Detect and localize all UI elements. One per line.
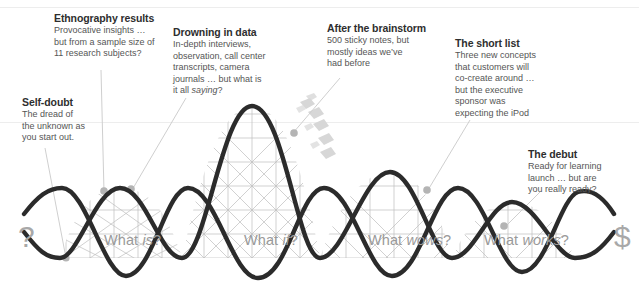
annotation-body-line: co-create around … <box>455 73 535 83</box>
annotation-body-line: but from a sample size of <box>54 37 155 47</box>
phase-emphasis: wows <box>406 232 443 248</box>
phase-suffix: ? <box>443 232 451 248</box>
annotation-drowning-in-data: Drowning in data In-depth interviews, ob… <box>173 26 277 97</box>
phase-emphasis: if <box>282 232 289 248</box>
annotation-body-line: but the executive <box>455 85 523 95</box>
annotation-body: Provocative insights … but from a sample… <box>54 25 164 60</box>
dollar-sign-glyph: $ <box>614 222 631 252</box>
phase-label-what-is: What is? <box>104 232 161 248</box>
marker-brainstorm <box>290 129 298 137</box>
phase-prefix: What <box>368 232 406 248</box>
annotation-heading: The debut <box>528 148 630 160</box>
marker-short-list <box>423 186 431 194</box>
annotation-body-line: launch … but are <box>528 173 597 183</box>
annotation-body-line: Provocative insights … <box>54 25 146 35</box>
phase-suffix: ? <box>561 232 569 248</box>
marker-debut <box>500 222 508 230</box>
annotation-body-line: that customers will <box>455 62 529 72</box>
phase-label-what-if: What if? <box>244 232 298 248</box>
diagram-canvas: Self-doubt The dread of the unknown as y… <box>0 0 639 300</box>
annotation-heading: Ethnography results <box>54 12 164 24</box>
leader-line-short-list <box>428 120 470 190</box>
annotation-body-line: observation, call center <box>173 51 266 61</box>
annotation-heading: After the brainstorm <box>327 22 435 34</box>
question-mark-glyph: ? <box>18 222 35 252</box>
annotation-the-short-list: The short list Three new concepts that c… <box>455 37 547 120</box>
annotation-body-line: you start out. <box>22 132 74 142</box>
phase-prefix: What <box>104 232 142 248</box>
annotation-body-line: the unknown as <box>22 121 85 131</box>
leader-line-drowning <box>132 98 186 190</box>
annotation-body-line: it all <box>173 85 192 95</box>
phase-suffix: ? <box>290 232 298 248</box>
annotation-body-line: you really ready? <box>528 184 597 194</box>
phase-emphasis: is <box>142 232 153 248</box>
annotation-body: Ready for learning launch … but are you … <box>528 161 630 196</box>
annotation-body-line: sponsor was <box>455 96 506 106</box>
annotation-emphasis-word: saying <box>192 85 218 95</box>
annotation-body-line: transcripts, camera <box>173 62 250 72</box>
phase-suffix: ? <box>153 232 161 248</box>
annotation-after-the-brainstorm: After the brainstorm 500 sticky notes, b… <box>327 22 435 70</box>
annotation-heading: The short list <box>455 37 547 49</box>
annotation-body-line: had before <box>327 58 370 68</box>
annotation-heading: Self-doubt <box>22 96 114 108</box>
phase-prefix: What <box>484 232 522 248</box>
phase-label-what-works: What works? <box>484 232 569 248</box>
annotation-body: Three new concepts that customers will c… <box>455 50 547 120</box>
annotation-body-line: 500 sticky notes, but <box>327 35 409 45</box>
annotation-the-debut: The debut Ready for learning launch … bu… <box>528 148 630 196</box>
annotation-body: In-depth interviews, observation, call c… <box>173 39 277 97</box>
annotation-body-line: Ready for learning <box>528 161 602 171</box>
annotation-heading: Drowning in data <box>173 26 277 38</box>
annotation-body: The dread of the unknown as you start ou… <box>22 109 114 144</box>
phase-emphasis: works <box>522 232 560 248</box>
phase-label-what-wows: What wows? <box>368 232 451 248</box>
phase-prefix: What <box>244 232 282 248</box>
annotation-body-line: The dread of <box>22 109 73 119</box>
annotation-body-line: 11 research subjects? <box>54 48 141 58</box>
annotation-body-line: mostly ideas we’ve <box>327 47 403 57</box>
leader-line-self-doubt <box>45 148 66 258</box>
truss-grid-arch-3 <box>312 162 460 270</box>
annotation-body-line: expecting the iPod <box>455 108 529 118</box>
annotation-body-tail: ? <box>218 85 223 95</box>
annotation-ethnography-results: Ethnography results Provocative insights… <box>54 12 164 60</box>
annotation-body-line: Three new concepts <box>455 50 536 60</box>
annotation-self-doubt: Self-doubt The dread of the unknown as y… <box>22 96 114 144</box>
leader-line-debut <box>505 192 540 227</box>
sticky-note-scribbles <box>296 93 336 159</box>
annotation-body: 500 sticky notes, but mostly ideas we’ve… <box>327 35 435 70</box>
annotation-body-line: In-depth interviews, <box>173 39 251 49</box>
annotation-body-line: journals … but what is <box>173 74 262 84</box>
